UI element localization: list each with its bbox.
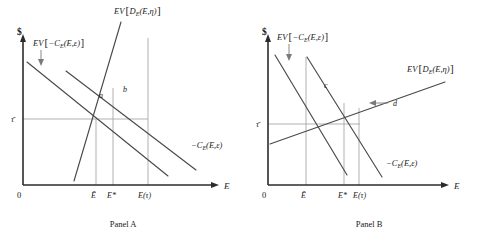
curve-ev-marginal-cost-b [275,55,347,175]
svg-text:EV[−CE(E,ε)]: EV[−CE(E,ε)] [32,36,84,49]
svg-text:−CE(E,ε): −CE(E,ε) [191,140,223,151]
area-label-c: c [324,81,328,90]
origin-label-b: 0 [262,190,266,200]
lbl-args-mc-a: (E,ε) [206,140,222,150]
x-tick-label-etau-b: E(τ) [352,191,366,200]
lbl-body-a: −C [49,38,61,48]
svg-text:EV[−CE(E,ε)]: EV[−CE(E,ε)] [276,30,328,43]
curve-label-ev-marginal-damage-b: EV[DE(E,η)] [406,62,454,75]
area-label-d: d [393,99,398,108]
pointer-head-a [38,59,44,66]
lbl-bracket-close-a: ] [80,36,84,48]
lbl-args-mc-b: (E,ε) [401,158,417,168]
lbl-ev-d-a: EV [113,6,126,16]
lbl-body-mc-a: −C [191,140,203,150]
pointer-head-d-b [369,100,376,106]
curve-label-ev-marginal-cost-b: EV[−CE(E,ε)] [276,30,328,43]
x-tick-label-ebar-a: Ē [90,191,96,200]
economics-figure: $ E 0 τ̄ Ē E* E(τ) EV[−CE(E,ε)] EV[DE(E,… [0,0,492,242]
lbl-args-b: (E,ε) [308,32,324,42]
lbl-bracket-close-d-a: ] [157,4,161,16]
area-label-a: a [99,91,103,100]
x-axis-arrow-b [441,182,449,188]
panel-b-axes [265,34,449,188]
curve-label-marginal-cost-b: −CE(E,ε) [386,158,418,169]
y-axis-label-a: $ [17,27,22,37]
x-tick-label-etau-a: E(τ) [137,191,151,200]
x-tick-label-estar-a: E* [106,191,116,200]
x-tick-label-estar-b: E* [337,191,347,200]
lbl-args-a: (E,ε) [64,38,80,48]
area-label-b: b [123,85,127,94]
lbl-bracket-close-b: ] [324,30,328,42]
curve-label-ev-marginal-damage-a: EV[DE(E,η)] [113,4,161,17]
panel-b-chart: $ E 0 τ̄ Ē E* E(τ) EV[−CE(E,ε)] EV[DE(E,… [246,0,492,242]
lbl-bracket-close-d-b: ] [450,62,454,74]
lbl-ev-d-b: EV [406,64,419,74]
curve-marginal-cost-a [66,71,196,170]
svg-text:−CE(E,ε): −CE(E,ε) [386,158,418,169]
lbl-args-d-b: (E,η) [432,64,449,74]
svg-text:EV[DE(E,η)]: EV[DE(E,η)] [113,4,161,17]
origin-label-a: 0 [17,190,21,200]
x-axis-arrow-a [211,182,219,188]
panel-a-chart: $ E 0 τ̄ Ē E* E(τ) EV[−CE(E,ε)] EV[DE(E,… [0,0,246,242]
panel-b-caption: Panel B [246,219,492,229]
x-axis-label-b: E [453,181,460,191]
curve-label-ev-marginal-cost-a: EV[−CE(E,ε)] [32,36,84,49]
lbl-ev-a: EV [32,38,45,48]
lbl-args-d-a: (E,η) [139,6,156,16]
lbl-body-b: −C [293,32,305,42]
lbl-ev-b: EV [276,32,289,42]
svg-text:EV[DE(E,η)]: EV[DE(E,η)] [406,62,454,75]
x-tick-label-ebar-b: Ē [300,191,306,200]
x-axis-label-a: E [223,181,230,191]
pointer-head-b [286,54,292,61]
panel-a-caption: Panel A [0,219,246,229]
y-tick-label-taubar-b: τ̄ [256,120,261,129]
curve-label-marginal-cost-a: −CE(E,ε) [191,140,223,151]
panel-b-ev-cost-pointer [286,44,292,61]
y-tick-label-taubar-a: τ̄ [11,115,16,124]
lbl-body-mc-b: −C [386,158,398,168]
panel-a-ev-cost-pointer [38,50,44,66]
y-axis-label-b: $ [262,27,267,37]
